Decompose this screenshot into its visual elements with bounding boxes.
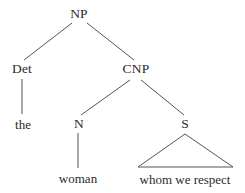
edge-cnp-to-n (81, 80, 130, 115)
edge-np-to-det (24, 23, 72, 60)
terminal-woman: woman (59, 172, 97, 185)
node-cnp: CNP (123, 62, 150, 76)
node-np: NP (70, 7, 88, 21)
syntax-tree-figure: NP Det CNP the N S woman whom we respect (0, 0, 245, 193)
node-s: S (181, 117, 189, 131)
edge-np-to-cnp (87, 23, 134, 60)
node-n: N (74, 117, 84, 131)
s-triangle-icon (138, 134, 233, 167)
node-det: Det (12, 62, 32, 76)
edge-cnp-to-s (141, 80, 184, 115)
terminal-clause: whom we respect (140, 173, 231, 186)
terminal-the: the (15, 118, 31, 131)
tree-edges-canvas (0, 0, 245, 193)
